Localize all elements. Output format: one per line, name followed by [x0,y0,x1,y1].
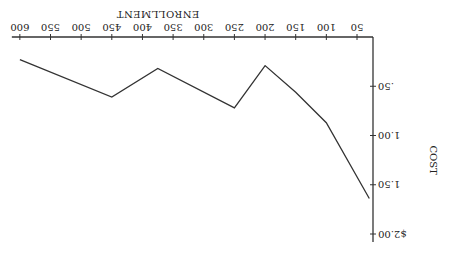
axes [12,37,373,242]
y-tick-label: 1.50 [378,179,400,190]
y-tick-label: $2.00 [378,229,407,240]
chart-canvas: 50100150200250300350400450500550600 .501… [0,0,452,257]
x-tick-label: 50 [351,22,364,33]
x-tick-label: 250 [225,22,244,33]
x-tick-label: 350 [164,22,183,33]
x-tick-label: 150 [286,22,305,33]
x-tick-label: 300 [194,22,213,33]
y-axis-ticks: .501.001.50$2.00 [370,81,407,240]
x-tick-label: 400 [133,22,152,33]
y-tick-label: 1.00 [378,130,400,141]
x-tick-label: 550 [41,22,60,33]
x-tick-label: 500 [72,22,91,33]
x-tick-label: 200 [256,22,275,33]
x-tick-label: 450 [102,22,121,33]
data-line [20,60,369,199]
y-axis-label: COST [428,145,439,175]
y-tick-label: .50 [378,81,394,92]
x-axis-label: ENROLLMENT [116,9,199,20]
x-tick-label: 600 [10,22,29,33]
line-chart: 50100150200250300350400450500550600 .501… [0,0,452,257]
x-tick-label: 100 [317,22,336,33]
